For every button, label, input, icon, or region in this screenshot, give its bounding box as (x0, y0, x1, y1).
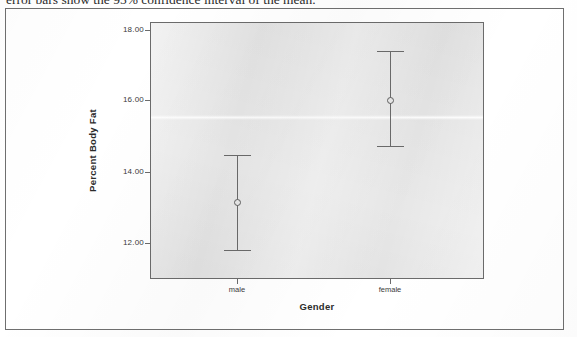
x-tick-label-female: female (355, 285, 425, 294)
errorbar-male-mean-marker (234, 199, 241, 206)
y-tick-mark-16 (145, 100, 150, 101)
y-tick-label-16: 16.00 (106, 95, 144, 104)
errorbar-male-lower-cap (224, 250, 251, 251)
y-tick-mark-12 (145, 243, 150, 244)
errorbar-female-mean-marker (387, 97, 394, 104)
errorbar-female-lower-cap (377, 146, 404, 147)
error-bar-chart: Percent Body Fat 18.00 16.00 14.00 12.00… (0, 0, 577, 337)
y-tick-label-wrap-18: 18.00 (100, 25, 144, 35)
y-tick-label-wrap-16: 16.00 (100, 95, 144, 105)
x-tick-mark-female (390, 279, 391, 284)
x-tick-label-male: male (202, 285, 272, 294)
y-tick-label-wrap-12: 12.00 (100, 238, 144, 248)
y-tick-mark-18 (145, 30, 150, 31)
plot-area (150, 22, 484, 279)
plot-paper-texture (151, 23, 483, 278)
y-tick-mark-14 (145, 172, 150, 173)
y-tick-label-12: 12.00 (106, 238, 144, 247)
scan-streak (151, 115, 483, 120)
y-axis-title: Percent Body Fat (87, 51, 98, 251)
x-tick-mark-male (237, 279, 238, 284)
y-tick-label-wrap-14: 14.00 (100, 167, 144, 177)
x-axis-title: Gender (150, 301, 484, 312)
y-tick-label-14: 14.00 (106, 167, 144, 176)
y-tick-label-18: 18.00 (106, 25, 144, 34)
